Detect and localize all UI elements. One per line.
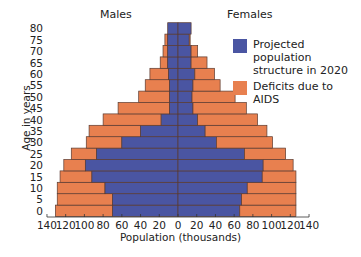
bar-male-deficit-45 [118,103,169,114]
bar-female-deficit-15 [262,171,296,182]
bar-male-deficit-55 [145,80,169,91]
bar-female-projected-45 [178,103,193,114]
bar-female-deficit-35 [205,125,267,136]
legend-swatch-deficits [233,81,247,95]
bar-female-projected-5 [178,194,242,205]
bar-male-projected-60 [169,68,178,79]
bar-female-projected-25 [178,148,244,159]
legend: Projected population structure in 2020 D… [233,38,361,109]
males-label: Males [100,8,132,21]
bar-male-projected-65 [168,57,178,68]
bar-male-deficit-10 [57,182,105,193]
bar-female-deficit-55 [193,80,220,91]
x-axis-label: Population (thousands) [0,231,361,243]
bar-female-deficit-30 [216,137,272,148]
bar-female-projected-55 [178,80,193,91]
bar-male-projected-75 [168,34,178,45]
bar-female-deficit-50 [192,91,235,102]
x-tick-label: 0 [175,219,182,231]
y-tick-label: 0 [36,205,43,217]
bar-male-projected-70 [168,46,178,57]
bar-female-projected-50 [178,91,192,102]
y-tick-label: 5 [36,193,43,205]
bar-male-deficit-70 [163,46,168,57]
bar-male-deficit-15 [60,171,92,182]
y-tick-label: 65 [30,57,43,69]
bar-female-projected-60 [178,68,195,79]
y-tick-label: 75 [30,34,43,46]
bar-male-projected-50 [170,91,178,102]
bar-male-projected-0 [112,205,178,216]
females-label: Females [227,8,273,21]
bar-male-projected-5 [112,194,178,205]
x-tick-label: 100 [74,219,94,231]
bar-female-deficit-10 [247,182,296,193]
bar-male-projected-40 [161,114,178,125]
bar-female-deficit-60 [195,68,215,79]
bar-male-deficit-30 [86,137,122,148]
x-tick-label: 140 [37,219,57,231]
bar-male-deficit-50 [139,91,170,102]
legend-item-projected: Projected population structure in 2020 [233,38,361,77]
bar-male-projected-20 [85,160,178,171]
bar-female-projected-20 [178,160,263,171]
bar-male-projected-10 [105,182,178,193]
y-tick-label: 10 [30,182,43,194]
legend-label-projected: Projected population structure in 2020 [253,38,361,77]
bar-male-deficit-25 [71,148,96,159]
x-tick-label: 60 [115,219,128,231]
y-tick-label: 80 [30,22,43,34]
legend-label-deficits: Deficits due to AIDS [253,80,361,106]
x-tick-label: 20 [153,219,166,231]
legend-swatch-projected [233,39,247,53]
y-tick-label: 20 [30,159,43,171]
x-tick-label: 120 [280,219,300,231]
bar-female-deficit-0 [240,205,296,216]
legend-item-deficits: Deficits due to AIDS [233,80,361,106]
x-tick-label: 140 [299,219,319,231]
bar-male-projected-25 [97,148,178,159]
x-tick-label: 40 [134,219,147,231]
bar-male-deficit-65 [160,57,167,68]
bar-male-projected-15 [92,171,178,182]
x-tick-label: 100 [262,219,282,231]
bar-male-deficit-0 [55,205,112,216]
legend-label-line1: Projected population [253,38,312,64]
bar-female-projected-35 [178,125,205,136]
bar-female-projected-10 [178,182,247,193]
bar-female-projected-40 [178,114,198,125]
bar-male-projected-80 [168,23,178,34]
bar-male-deficit-75 [165,34,168,45]
bar-female-deficit-65 [191,57,207,68]
bar-male-deficit-60 [150,68,169,79]
bar-male-projected-55 [170,80,178,91]
bar-female-projected-70 [178,46,191,57]
y-axis-label: Age in years [20,78,32,158]
bar-female-projected-15 [178,171,262,182]
bar-male-deficit-5 [57,194,112,205]
y-tick-label: 15 [30,171,43,183]
bar-female-projected-30 [178,137,216,148]
bar-female-projected-65 [178,57,191,68]
bar-female-projected-0 [178,205,240,216]
bar-male-projected-35 [141,125,178,136]
bar-male-deficit-40 [103,114,161,125]
bar-female-deficit-75 [189,34,190,45]
bar-female-deficit-40 [198,114,258,125]
x-tick-label: 60 [227,219,240,231]
bar-female-deficit-70 [191,46,198,57]
bar-female-deficit-5 [242,194,296,205]
y-tick-label: 70 [30,45,43,57]
x-tick-label: 120 [56,219,76,231]
bar-female-deficit-25 [244,148,285,159]
bar-female-deficit-20 [263,160,293,171]
bar-female-projected-75 [178,34,189,45]
legend-label-line2: structure in 2020 [253,64,348,77]
x-tick-label: 40 [209,219,222,231]
bar-male-deficit-20 [64,160,86,171]
bar-male-projected-45 [170,103,178,114]
x-tick-label: 20 [190,219,203,231]
x-tick-label: 80 [96,219,109,231]
bar-female-projected-80 [178,23,191,34]
x-tick-label: 80 [246,219,259,231]
